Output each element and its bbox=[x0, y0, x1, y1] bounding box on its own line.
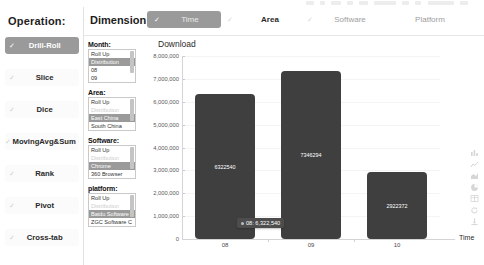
bar-value-label: 7346294 bbox=[281, 152, 341, 158]
filter-caption: Area: bbox=[88, 89, 140, 96]
pie-chart-icon[interactable] bbox=[470, 183, 479, 192]
tab-software[interactable]: Software bbox=[319, 11, 381, 28]
operation-item-pivot[interactable]: ✓ Pivot bbox=[5, 197, 79, 214]
tab-separator: ✓ bbox=[301, 16, 319, 24]
dimension-title: Dimension: bbox=[90, 14, 150, 26]
operation-item-slice[interactable]: ✓ Slice bbox=[5, 69, 79, 86]
operation-item-movingavg-sum[interactable]: ✓ MovingAvg&Sum bbox=[5, 133, 79, 150]
x-axis-tick-label: 08 bbox=[222, 242, 229, 248]
scrollbar-thumb[interactable] bbox=[130, 195, 134, 217]
y-axis-tick-label: 2,000,000 bbox=[141, 190, 179, 196]
filter-listbox-software[interactable]: Roll Up Distribution Chrome 360 Browser bbox=[88, 145, 136, 179]
table-icon[interactable] bbox=[470, 194, 479, 203]
check-icon: ✓ bbox=[5, 42, 18, 49]
y-axis-tick-label: 0 bbox=[141, 236, 179, 242]
list-item[interactable]: 08 bbox=[89, 66, 135, 74]
filter-caption: Software: bbox=[88, 137, 140, 144]
list-item[interactable]: Chrome bbox=[89, 162, 135, 170]
operation-item-label: Pivot bbox=[19, 201, 78, 210]
filter-listbox-platform[interactable]: Roll Up Distribution Baidu Software ZGC … bbox=[88, 193, 136, 227]
dimension-tabs: ✓ Time ✓ Area ✓ Software Platform bbox=[147, 11, 461, 28]
filter-caption: Month: bbox=[88, 41, 140, 48]
bar-value-label: 6322540 bbox=[195, 164, 255, 170]
list-item[interactable]: 360 Browser bbox=[89, 170, 135, 178]
chart-tooltip: 08: 6,322,540 bbox=[237, 218, 284, 228]
scrollbar-thumb[interactable] bbox=[130, 99, 134, 121]
gridline bbox=[183, 56, 440, 57]
list-item[interactable]: Distribution bbox=[89, 154, 135, 162]
operation-list: ✓ Drill-Roll ✓ Slice ✓ Dice ✓ MovingAvg&… bbox=[5, 37, 79, 261]
list-item[interactable]: Distribution bbox=[89, 58, 135, 66]
dimension-header: Dimension: ✓ Time ✓ Area ✓ Software Plat… bbox=[84, 7, 484, 36]
chart-panel: Download 01,000,0002,000,0003,000,0004,0… bbox=[141, 36, 484, 265]
operation-item-label: Slice bbox=[19, 73, 78, 82]
app-root: Operation: ✓ Drill-Roll ✓ Slice ✓ Dice ✓… bbox=[0, 0, 484, 265]
area-chart-icon[interactable] bbox=[470, 171, 479, 180]
filter-group-software: Software: Roll Up Distribution Chrome 36… bbox=[88, 137, 140, 179]
y-axis-ticks: 01,000,0002,000,0003,000,0004,000,0005,0… bbox=[141, 56, 179, 240]
y-axis-line bbox=[182, 56, 183, 240]
operation-item-label: Cross-tab bbox=[19, 233, 78, 242]
tab-separator: ✓ bbox=[221, 16, 239, 24]
x-axis-tickmark bbox=[354, 239, 355, 242]
check-icon: ✓ bbox=[5, 170, 18, 177]
x-axis-tickmark bbox=[268, 239, 269, 242]
y-axis-tick-label: 3,000,000 bbox=[141, 167, 179, 173]
filter-listbox-area[interactable]: Roll Up Distribution East China South Ch… bbox=[88, 97, 136, 131]
bar[interactable]: 7346294 bbox=[281, 71, 341, 239]
bar[interactable]: 2922372 bbox=[367, 172, 427, 239]
tooltip-text: 08: 6,322,540 bbox=[246, 220, 280, 226]
check-icon: ✓ bbox=[151, 16, 163, 24]
list-item[interactable]: ZGC Software C bbox=[89, 218, 135, 226]
chart-title: Download bbox=[158, 39, 196, 49]
list-item[interactable]: Distribution bbox=[89, 106, 135, 114]
x-axis-tick-label: 10 bbox=[394, 242, 401, 248]
x-axis-tick-label: 09 bbox=[308, 242, 315, 248]
list-item[interactable]: Roll Up bbox=[89, 50, 135, 58]
filter-listbox-month[interactable]: Roll Up Distribution 08 09 bbox=[88, 49, 136, 83]
tooltip-marker-icon bbox=[241, 222, 244, 225]
list-item[interactable]: South China bbox=[89, 122, 135, 130]
operation-item-label: MovingAvg&Sum bbox=[12, 137, 83, 146]
y-axis-tick-label: 8,000,000 bbox=[141, 53, 179, 59]
y-axis-tick-label: 4,000,000 bbox=[141, 145, 179, 151]
x-axis-line bbox=[182, 239, 455, 240]
tab-label: Time bbox=[163, 15, 217, 24]
tab-label: Platform bbox=[403, 15, 457, 24]
download-icon[interactable] bbox=[470, 217, 479, 226]
filter-panel: Month: Roll Up Distribution 08 09 Area: … bbox=[88, 41, 140, 233]
check-icon: ✓ bbox=[5, 234, 18, 241]
y-axis-tick-label: 7,000,000 bbox=[141, 76, 179, 82]
operation-item-dice[interactable]: ✓ Dice bbox=[5, 101, 79, 118]
line-chart-icon[interactable] bbox=[470, 160, 479, 169]
bar-value-label: 2922372 bbox=[367, 203, 427, 209]
list-item[interactable]: Distribution bbox=[89, 202, 135, 210]
tab-time[interactable]: ✓ Time bbox=[147, 11, 221, 28]
operation-panel-title: Operation: bbox=[8, 15, 66, 27]
list-item[interactable]: Roll Up bbox=[89, 194, 135, 202]
check-icon: ✓ bbox=[5, 74, 18, 81]
operation-item-rank[interactable]: ✓ Rank bbox=[5, 165, 79, 182]
refresh-icon[interactable] bbox=[470, 206, 479, 215]
operation-item-cross-tab[interactable]: ✓ Cross-tab bbox=[5, 229, 79, 246]
scrollbar-thumb[interactable] bbox=[130, 147, 134, 169]
list-item[interactable]: Roll Up bbox=[89, 98, 135, 106]
list-item[interactable]: Roll Up bbox=[89, 146, 135, 154]
filter-group-month: Month: Roll Up Distribution 08 09 bbox=[88, 41, 140, 83]
list-item[interactable]: East China bbox=[89, 114, 135, 122]
tab-platform[interactable]: Platform bbox=[399, 11, 461, 28]
operation-item-label: Drill-Roll bbox=[19, 41, 78, 50]
operation-item-drill-roll[interactable]: ✓ Drill-Roll bbox=[5, 37, 79, 54]
y-axis-tick-label: 5,000,000 bbox=[141, 122, 179, 128]
list-item[interactable]: Baidu Software bbox=[89, 210, 135, 218]
list-item[interactable]: 09 bbox=[89, 74, 135, 82]
top-decoration-strip bbox=[0, 0, 484, 7]
scrollbar-thumb[interactable] bbox=[130, 51, 134, 73]
x-axis-label: Time bbox=[459, 234, 474, 241]
bar-chart-icon[interactable] bbox=[470, 148, 479, 157]
tab-label: Area bbox=[243, 15, 297, 24]
operation-panel: Operation: ✓ Drill-Roll ✓ Slice ✓ Dice ✓… bbox=[0, 7, 84, 265]
tab-area[interactable]: Area bbox=[239, 11, 301, 28]
check-icon: ✓ bbox=[5, 138, 11, 145]
y-axis-tick-label: 1,000,000 bbox=[141, 213, 179, 219]
